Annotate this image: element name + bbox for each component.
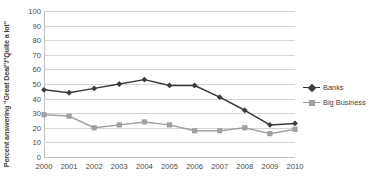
legend-label: Banks [323, 83, 344, 92]
data-point [217, 94, 223, 100]
legend-marker-diamond-icon [303, 83, 320, 92]
y-axis-tick-label: 40 [33, 94, 41, 103]
series-layer [44, 11, 295, 157]
x-axis-tick-label: 2008 [236, 162, 253, 171]
data-point [92, 125, 97, 130]
data-point [192, 128, 197, 133]
legend-label: Big Business [323, 98, 366, 107]
data-point [167, 83, 173, 89]
x-axis-tick-label: 2005 [161, 162, 178, 171]
y-axis-title-label: Percent answering "Great Deal"/"Quite a … [3, 20, 11, 166]
x-axis-tick-label: 2007 [211, 162, 228, 171]
x-axis-tick-label: 2000 [36, 162, 53, 171]
y-axis-tick-label: 80 [33, 36, 41, 45]
data-point [142, 119, 147, 124]
gridline [44, 157, 295, 158]
x-axis-tick-label: 2009 [261, 162, 278, 171]
chart-legend: Banks Big Business [303, 80, 380, 110]
data-point [117, 122, 122, 127]
x-axis-tick-labels: 2000200120022003200420052006200720082009… [44, 162, 295, 176]
y-axis-tick-label: 50 [33, 80, 41, 89]
series-banks [41, 77, 298, 128]
legend-item-big-business[interactable]: Big Business [303, 95, 380, 110]
data-point [167, 122, 172, 127]
y-axis-title: Percent answering "Great Deal"/"Quite a … [0, 0, 14, 187]
plot-area [44, 11, 295, 157]
y-axis-tick-label: 60 [33, 65, 41, 74]
data-point [242, 125, 247, 130]
y-axis-tick-label: 30 [33, 109, 41, 118]
x-axis-tick-label: 2004 [136, 162, 153, 171]
x-axis-tick-label: 2003 [111, 162, 128, 171]
data-point [192, 83, 198, 89]
data-point [267, 131, 272, 136]
legend-marker-square-icon [303, 98, 320, 107]
x-axis-tick-label: 2006 [186, 162, 203, 171]
y-axis-tick-label: 10 [33, 138, 41, 147]
data-point [217, 128, 222, 133]
data-point [292, 127, 297, 132]
data-point [292, 121, 298, 127]
line-chart: Percent answering "Great Deal"/"Quite a … [0, 0, 380, 187]
data-point [116, 81, 122, 87]
x-axis-tick-label: 2010 [287, 162, 304, 171]
y-axis-tick-label: 20 [33, 123, 41, 132]
data-point [41, 87, 47, 93]
y-axis-tick-label: 70 [33, 50, 41, 59]
x-axis-tick-label: 2002 [86, 162, 103, 171]
data-point [142, 77, 148, 83]
y-axis-tick-label: 0 [37, 153, 41, 162]
legend-item-banks[interactable]: Banks [303, 80, 380, 95]
series-big-business [41, 112, 297, 136]
y-axis-tick-label: 90 [33, 21, 41, 30]
y-axis-tick-label: 100 [28, 7, 41, 16]
data-point [66, 90, 72, 96]
data-point [67, 114, 72, 119]
x-axis-tick-label: 2001 [61, 162, 78, 171]
data-point [91, 85, 97, 91]
y-axis-tick-labels: 0102030405060708090100 [20, 0, 41, 187]
data-point [41, 112, 46, 117]
